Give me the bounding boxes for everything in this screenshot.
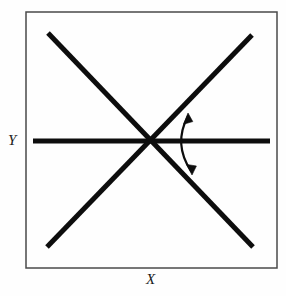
angle-arrowhead-up-icon [184,113,193,124]
angle-arrowhead-down-icon [187,164,197,175]
x-axis-label: X [146,272,155,287]
figure-root: Y X [0,0,286,296]
y-axis-label: Y [8,133,16,148]
figure-canvas [0,0,286,296]
angle-double-arrow [181,113,196,175]
